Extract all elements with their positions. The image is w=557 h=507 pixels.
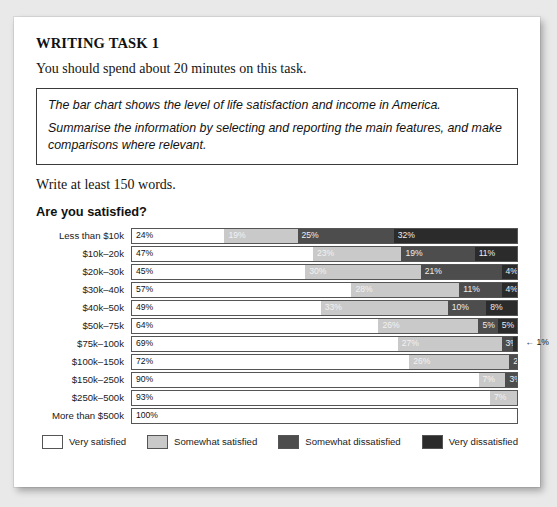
segment-value-label: 5%: [498, 321, 514, 330]
bar-segment: 7%: [490, 391, 517, 405]
segment-value-label: 32%: [394, 231, 415, 240]
segment-value-label: 3%: [505, 375, 517, 384]
word-count-note: Write at least 150 words.: [36, 177, 518, 193]
stacked-bar: 24%19%25%32%: [131, 228, 518, 244]
segment-value-label: 45%: [132, 267, 153, 276]
row-label: $150k–250k: [36, 374, 131, 385]
segment-value-label: 47%: [132, 249, 153, 258]
bar-segment: 2%: [509, 355, 517, 369]
legend-label: Somewhat satisfied: [174, 436, 257, 447]
bar-segment: 10%: [448, 301, 487, 315]
row-label: $30k–40k: [36, 284, 131, 295]
bar-segment: 3%: [502, 337, 514, 351]
legend-swatch: [42, 435, 63, 449]
bar-segment: 26%: [409, 355, 509, 369]
legend-swatch: [422, 435, 443, 449]
callout-annotation: ← 1%: [526, 337, 549, 347]
segment-value-label: 5%: [478, 321, 494, 330]
stacked-bar: 69%27%3%: [131, 336, 518, 352]
page-title: WRITING TASK 1: [36, 35, 518, 52]
segment-value-label: 8%: [486, 303, 502, 312]
legend-label: Very satisfied: [69, 436, 126, 447]
segment-value-label: 26%: [378, 321, 399, 330]
segment-value-label: 11%: [459, 285, 480, 294]
segment-value-label: 90%: [132, 375, 153, 384]
bar-segment: 72%: [132, 355, 409, 369]
legend-item: Very dissatisfied: [422, 435, 518, 449]
segment-value-label: 100%: [132, 411, 158, 420]
stacked-bar: 49%33%10%8%: [131, 300, 518, 316]
stacked-bar: 72%26%2%: [131, 354, 518, 370]
chart-row: $250k–500k93%7%: [36, 390, 518, 406]
chart-row: $20k–30k45%30%21%4%: [36, 264, 518, 280]
bar-segment: 23%: [313, 247, 402, 261]
segment-value-label: 57%: [132, 285, 153, 294]
bar-segment: 21%: [421, 265, 502, 279]
row-label: Less than $10k: [36, 230, 131, 241]
segment-value-label: 4%: [502, 285, 517, 294]
bar-segment: 24%: [132, 229, 224, 243]
segment-value-label: 23%: [313, 249, 334, 258]
bar-segment: 100%: [132, 409, 517, 423]
task-instruction: You should spend about 20 minutes on thi…: [36, 61, 518, 77]
segment-value-label: 7%: [479, 375, 495, 384]
bar-segment: 28%: [351, 283, 459, 297]
prompt-line-2: Summarise the information by selecting a…: [48, 120, 506, 155]
segment-value-label: 93%: [132, 393, 153, 402]
segment-value-label: 49%: [132, 303, 153, 312]
stacked-bar: 47%23%19%11%: [131, 246, 518, 262]
segment-value-label: 26%: [409, 357, 430, 366]
legend-swatch: [278, 435, 299, 449]
chart-title: Are you satisfied?: [36, 204, 518, 219]
segment-value-label: 4%: [502, 267, 517, 276]
legend-label: Somewhat dissatisfied: [305, 436, 400, 447]
stacked-bar: 45%30%21%4%: [131, 264, 518, 280]
bar-segment: 11%: [475, 247, 517, 261]
segment-value-label: 19%: [224, 231, 245, 240]
chart-row: $150k–250k90%7%3%: [36, 372, 518, 388]
chart-row: More than $500k100%: [36, 408, 518, 424]
bar-segment: 93%: [132, 391, 490, 405]
bar-segment: 26%: [378, 319, 478, 333]
segment-value-label: 64%: [132, 321, 153, 330]
segment-value-label: 24%: [132, 231, 153, 240]
segment-value-label: 11%: [475, 249, 496, 258]
stacked-bar: 93%7%: [131, 390, 518, 406]
segment-value-label: 30%: [305, 267, 326, 276]
segment-value-label: 3%: [502, 339, 514, 348]
bar-segment: 19%: [224, 229, 297, 243]
segment-value-label: 72%: [132, 357, 153, 366]
bar-segment: 30%: [305, 265, 421, 279]
segment-value-label: 33%: [321, 303, 342, 312]
chart-row: $40k–50k49%33%10%8%: [36, 300, 518, 316]
bar-segment: 69%: [132, 337, 398, 351]
legend-swatch: [147, 435, 168, 449]
legend-item: Somewhat dissatisfied: [278, 435, 400, 449]
segment-value-label: 27%: [398, 339, 419, 348]
segment-value-label: 19%: [401, 249, 422, 258]
chart-row: $75k–100k69%27%3%← 1%: [36, 336, 518, 352]
chart-row: $30k–40k57%28%11%4%: [36, 282, 518, 298]
bar-segment: 32%: [394, 229, 517, 243]
stacked-bar-chart: Less than $10k24%19%25%32%$10k–20k47%23%…: [36, 228, 518, 424]
bar-segment: 3%: [505, 373, 517, 387]
row-label: $100k–150k: [36, 356, 131, 367]
prompt-box: The bar chart shows the level of life sa…: [36, 88, 518, 165]
bar-segment: 11%: [459, 283, 501, 297]
segment-value-label: 21%: [421, 267, 442, 276]
row-label: $75k–100k: [36, 338, 131, 349]
bar-segment: 19%: [401, 247, 474, 261]
stacked-bar: 57%28%11%4%: [131, 282, 518, 298]
segment-value-label: 2%: [509, 357, 517, 366]
bar-segment: 27%: [398, 337, 502, 351]
chart-row: $100k–150k72%26%2%: [36, 354, 518, 370]
bar-segment: 7%: [479, 373, 506, 387]
bar-segment: 90%: [132, 373, 479, 387]
chart-row: Less than $10k24%19%25%32%: [36, 228, 518, 244]
segment-value-label: 28%: [351, 285, 372, 294]
segment-value-label: 7%: [490, 393, 506, 402]
chart-row: $50k–75k64%26%5%5%: [36, 318, 518, 334]
legend-label: Very dissatisfied: [449, 436, 518, 447]
bar-segment: 8%: [486, 301, 517, 315]
segment-value-label: 25%: [298, 231, 319, 240]
